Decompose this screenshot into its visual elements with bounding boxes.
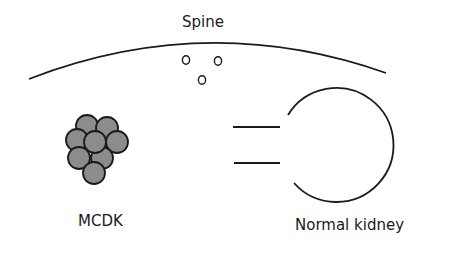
mcdk-cyst-cluster bbox=[66, 115, 128, 184]
mcdk-label: MCDK bbox=[78, 212, 123, 230]
spine-label: Spine bbox=[182, 13, 224, 31]
ureter-lines bbox=[233, 127, 280, 163]
normal-kidney-label: Normal kidney bbox=[295, 216, 404, 234]
vertebra-icon bbox=[198, 76, 205, 84]
vertebra-icon bbox=[182, 56, 189, 64]
vertebra-icon bbox=[214, 57, 221, 65]
normal-kidney-outline bbox=[288, 88, 393, 202]
spine-curve bbox=[29, 43, 386, 79]
cyst-icon bbox=[83, 162, 105, 184]
cyst-icon bbox=[84, 131, 106, 153]
vertebrae-group bbox=[182, 56, 221, 84]
